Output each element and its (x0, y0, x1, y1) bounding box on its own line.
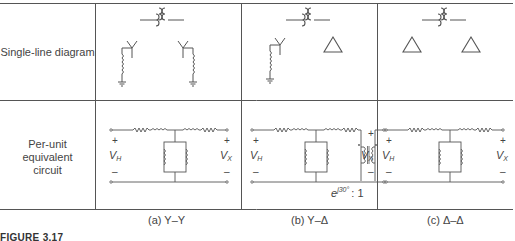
vx-label: VX (496, 149, 508, 162)
plus-sign: + (500, 135, 506, 146)
vx-label: VX (361, 149, 373, 162)
figure-label: FIGURE 3.17 (0, 232, 63, 241)
vh-label: VH (109, 149, 122, 162)
per-unit-circuit-yy: + VH – + VX – (109, 128, 232, 183)
minus-sign: – (368, 166, 374, 177)
delta-icon (403, 37, 421, 52)
per-unit-circuit-y-delta: + VH – + VX – ej30°: 1 (250, 128, 385, 199)
vh-label: VH (382, 149, 395, 162)
vx-label: VX (220, 149, 232, 162)
vh-label: VH (250, 149, 263, 162)
plus-sign: + (112, 135, 118, 146)
single-line-delta-delta (403, 8, 480, 52)
grounded-wye-icon (266, 38, 285, 83)
grounded-wye-icon (178, 41, 197, 86)
per-unit-circuit-delta-delta: + VH – + VX – (382, 128, 508, 183)
caption-yy: (a) Y–Y (148, 214, 185, 226)
figure: + VH – + VX – (0, 0, 515, 241)
row-label-line: Per-unit (0, 138, 95, 151)
row-label-per-unit: Per-unit equivalent circuit (0, 138, 95, 177)
plus-sign: + (386, 135, 392, 146)
minus-sign: – (224, 166, 230, 177)
transformer-connection-diagram: + VH – + VX – (0, 0, 515, 241)
minus-sign: – (386, 166, 392, 177)
row-label-single-line: Single-line diagram (0, 46, 95, 59)
minus-sign: – (112, 166, 118, 177)
single-line-yy (118, 8, 197, 86)
row-label-line: circuit (0, 164, 95, 177)
caption-delta-delta: (c) Δ–Δ (427, 214, 464, 226)
caption-y-delta: (b) Y–Δ (291, 214, 328, 226)
minus-sign: – (253, 166, 259, 177)
single-line-y-delta (266, 8, 342, 83)
row-label-line: equivalent (0, 151, 95, 164)
minus-sign: – (500, 166, 506, 177)
plus-sign: + (253, 135, 259, 146)
phase-shift-ratio: ej30°: 1 (331, 186, 364, 199)
plus-sign: + (224, 135, 230, 146)
delta-icon (324, 37, 342, 52)
plus-sign: + (368, 128, 374, 139)
grounded-wye-icon (118, 41, 137, 86)
transformer-icon (140, 8, 184, 26)
delta-icon (462, 37, 480, 52)
transformer-icon (422, 8, 466, 26)
transformer-icon (286, 8, 330, 26)
